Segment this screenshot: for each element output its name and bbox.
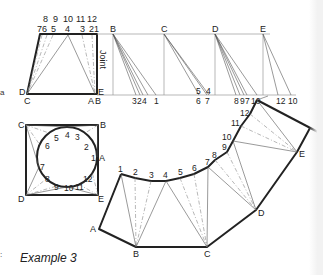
dev-pt-2: 2 <box>133 167 138 177</box>
joint-label: Joint <box>98 50 108 70</box>
plan-pt-4: 4 <box>65 130 70 140</box>
tl-vertex-C: C <box>161 24 168 34</box>
dev-pt-10: 10 <box>222 132 232 142</box>
dev-pt-3: 3 <box>149 170 154 180</box>
figure-caption: Example 3 <box>20 251 77 265</box>
plan-pt-10: 10 <box>64 183 74 193</box>
tl-C-6: 6 <box>196 96 201 106</box>
development-pattern: 1 2 3 4 5 6 7 8 9 10 11 12 A B C D E <box>90 96 318 259</box>
development-base-edge <box>99 128 310 247</box>
left-edge-mark-colon: : <box>0 250 2 259</box>
dev-base-D: D <box>258 208 265 218</box>
sheet-metal-development-diagram: 8 9 10 11 12 7 6 5 4 3 2 1 D C A B E Joi… <box>0 0 323 275</box>
plan-view: C B A D E 1 2 3 4 5 6 7 8 9 10 11 12 <box>18 120 106 204</box>
plan-corner-D: D <box>18 194 25 204</box>
plan-pt-3: 3 <box>75 132 80 142</box>
tl-B-4: 4 <box>142 96 147 106</box>
dev-base-C: C <box>204 249 211 259</box>
plan-corner-B: B <box>100 120 106 130</box>
page-edge-shadow <box>309 0 323 275</box>
development-curve-edge <box>121 100 257 181</box>
elev-label-10: 10 <box>63 14 73 24</box>
elev-corner-A: A <box>88 96 94 106</box>
tl-E-12: 12 <box>276 96 286 106</box>
elev-corner-C: C <box>24 96 31 106</box>
elev-label-6: 6 <box>42 24 47 34</box>
elev-label-9: 9 <box>53 14 58 24</box>
tl-vertex-D: D <box>212 24 219 34</box>
elev-label-8: 8 <box>43 14 48 24</box>
elev-label-5: 5 <box>51 24 56 34</box>
tl-E-10: 10 <box>288 96 298 106</box>
dev-pt-4: 4 <box>163 170 168 180</box>
elev-label-4: 4 <box>65 24 70 34</box>
elev-label-12: 12 <box>87 14 97 24</box>
left-edge-mark-a: a <box>0 88 4 97</box>
true-length-diagram: B C D E 3 2 4 1 5 4 6 7 8 9 7 10 12 10 <box>110 24 298 106</box>
plan-pt-6: 6 <box>45 141 50 151</box>
dev-pt-11: 11 <box>231 118 240 128</box>
elevation-outline <box>27 34 97 94</box>
dev-pt-9: 9 <box>222 142 227 152</box>
dev-base-A: A <box>90 224 96 234</box>
tl-vertex-B: B <box>110 24 116 34</box>
plan-corner-A: A <box>99 153 105 163</box>
elev-label-11: 11 <box>76 14 85 24</box>
dev-pt-7: 7 <box>205 157 210 167</box>
tl-C-5: 5 <box>196 86 201 96</box>
dev-pt-12: 12 <box>240 108 250 118</box>
plan-pt-5: 5 <box>54 133 59 143</box>
elev-label-3: 3 <box>80 24 85 34</box>
dev-pt-1: 1 <box>118 164 123 174</box>
dev-pt-5: 5 <box>178 167 183 177</box>
plan-corner-E: E <box>98 194 104 204</box>
plan-pt-2: 2 <box>84 142 89 152</box>
elev-corner-B: B <box>95 96 101 106</box>
dev-base-E: E <box>299 149 305 159</box>
elevation-view: 8 9 10 11 12 7 6 5 4 3 2 1 D C A B E Joi… <box>19 14 112 106</box>
plan-pt-1: 1 <box>91 153 96 163</box>
dev-pt-6: 6 <box>192 163 197 173</box>
plan-pt-7: 7 <box>40 162 45 172</box>
plan-pt-12: 12 <box>83 174 93 184</box>
elev-label-1: 1 <box>94 24 99 34</box>
dev-base-B: B <box>133 249 139 259</box>
tl-vertex-E: E <box>260 24 266 34</box>
tl-C-4: 4 <box>206 86 211 96</box>
tl-D-8: 8 <box>234 96 239 106</box>
tl-C-7: 7 <box>205 96 210 106</box>
tl-D-7: 7 <box>245 96 250 106</box>
tl-B-1: 1 <box>154 96 159 106</box>
dev-pt-8: 8 <box>212 150 217 160</box>
plan-pt-8: 8 <box>45 174 50 184</box>
plan-corner-C: C <box>18 120 25 130</box>
plan-pt-9: 9 <box>54 182 59 192</box>
elev-corner-E: E <box>98 87 104 97</box>
